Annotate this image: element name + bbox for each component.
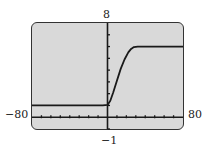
plot-area <box>0 0 203 155</box>
